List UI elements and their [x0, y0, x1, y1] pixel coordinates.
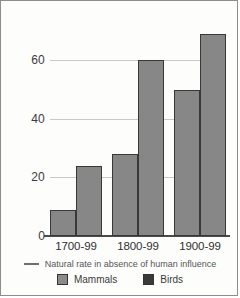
chart-figure: 60 40 20 0 1700-99 1800-99 1900-99 — [0, 0, 238, 296]
bar-mammals-1800-99[interactable] — [112, 154, 138, 236]
bar-group-1800-99 — [112, 25, 164, 236]
y-tick-label-60: 60 — [31, 53, 45, 67]
bar-group-1900-99 — [174, 25, 226, 236]
plot-area: 60 40 20 0 — [50, 25, 226, 236]
x-tick-label-1800-99: 1800-99 — [112, 240, 164, 252]
bar-group-1700-99 — [50, 25, 102, 236]
y-tick-label-0: 0 — [38, 229, 45, 243]
legend-row-series: Mammals Birds — [1, 274, 239, 285]
bar-groups — [50, 25, 226, 236]
x-axis-labels: 1700-99 1800-99 1900-99 — [50, 240, 226, 252]
legend-item-birds[interactable]: Birds — [143, 274, 183, 285]
legend-label-natural-rate: Natural rate in absence of human influen… — [45, 259, 217, 269]
line-swatch-icon — [24, 263, 39, 265]
chart-legend: Natural rate in absence of human influen… — [1, 259, 239, 285]
x-tick-label-1900-99: 1900-99 — [174, 240, 226, 252]
bar-birds-1900-99[interactable] — [200, 34, 226, 236]
legend-item-natural-rate: Natural rate in absence of human influen… — [24, 259, 217, 269]
y-tick-label-20: 20 — [31, 170, 45, 184]
bar-mammals-1700-99[interactable] — [50, 210, 76, 236]
bar-birds-1800-99[interactable] — [138, 60, 164, 236]
square-swatch-mammals-icon — [57, 274, 68, 285]
bar-birds-1700-99[interactable] — [76, 166, 102, 236]
x-tick-label-1700-99: 1700-99 — [50, 240, 102, 252]
legend-item-mammals[interactable]: Mammals — [57, 274, 117, 285]
y-tick-label-40: 40 — [31, 112, 45, 126]
legend-label-birds: Birds — [160, 274, 183, 285]
legend-row-natural-rate: Natural rate in absence of human influen… — [1, 259, 239, 269]
bar-mammals-1900-99[interactable] — [174, 90, 200, 237]
square-swatch-birds-icon — [143, 274, 154, 285]
legend-label-mammals: Mammals — [74, 274, 117, 285]
